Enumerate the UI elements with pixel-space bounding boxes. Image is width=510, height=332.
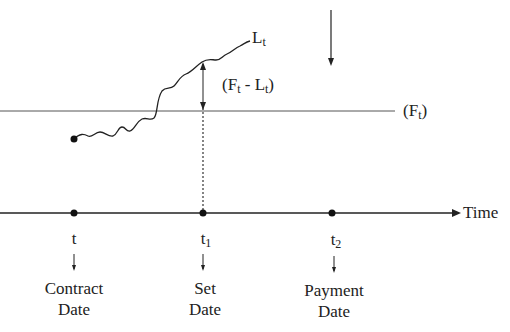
point-symbol-payment: t2 <box>331 230 342 254</box>
arrow-down-icon <box>200 102 206 110</box>
arrow-down-icon <box>332 267 336 273</box>
arrow-down-icon <box>72 265 76 271</box>
libor-label: Lt <box>252 28 266 52</box>
contract-date-line1: Contract <box>45 279 104 299</box>
spread-label: (Ft - Lt) <box>222 75 274 99</box>
contract-date-dot <box>71 210 78 217</box>
point-symbol-set: t1 <box>201 229 212 253</box>
time-axis-label: Time <box>463 203 498 223</box>
set-date-dot <box>200 210 207 217</box>
payment-date-line1: Payment <box>304 281 364 301</box>
forward-rate-label: (Ft) <box>403 101 427 125</box>
payment-date-line2: Date <box>318 302 350 322</box>
contract-date-line2: Date <box>58 300 90 320</box>
libor-start-dot <box>71 136 78 143</box>
label-arrows <box>74 254 334 271</box>
arrow-down-icon <box>201 265 205 271</box>
time-axis-arrowhead-icon <box>452 209 461 217</box>
arrow-down-icon <box>328 58 334 66</box>
point-symbol-contract: t <box>72 229 77 253</box>
set-date-line1: Set <box>194 279 216 299</box>
set-date-line2: Date <box>189 300 221 320</box>
payment-date-dot <box>329 210 336 217</box>
